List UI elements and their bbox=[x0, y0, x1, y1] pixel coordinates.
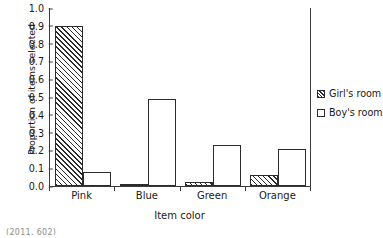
y-axis-tick-label: 0.7 bbox=[29, 56, 49, 67]
legend-swatch-icon bbox=[317, 90, 325, 98]
y-axis-tick-label: 0.0 bbox=[29, 181, 49, 192]
legend: Girl's roomBoy's room bbox=[317, 88, 383, 126]
bar bbox=[120, 184, 148, 186]
x-axis-title: Item color bbox=[49, 210, 310, 221]
caption-fragment: (2011, 602) bbox=[6, 228, 56, 235]
legend-item: Boy's room bbox=[317, 107, 383, 118]
x-axis-tick-mark bbox=[49, 187, 50, 191]
y-axis-tick-label: 1.0 bbox=[29, 3, 49, 14]
y-axis-tick-label: 0.2 bbox=[29, 145, 49, 156]
bar-group bbox=[50, 8, 115, 186]
x-axis-tick-label: Blue bbox=[114, 190, 179, 201]
x-axis-tick-label: Pink bbox=[49, 190, 114, 201]
y-axis-tick-label: 0.5 bbox=[29, 92, 49, 103]
x-axis-tick-label: Green bbox=[180, 190, 245, 201]
plot-area bbox=[49, 8, 311, 187]
x-axis-tick-mark bbox=[310, 187, 311, 191]
bar-group bbox=[246, 8, 311, 186]
legend-swatch-icon bbox=[317, 109, 325, 117]
legend-item: Girl's room bbox=[317, 88, 383, 99]
bar bbox=[83, 172, 111, 186]
legend-divider-line bbox=[310, 8, 311, 187]
bar-group bbox=[181, 8, 246, 186]
x-axis-tick-label: Orange bbox=[245, 190, 310, 201]
y-axis-tick-label: 0.4 bbox=[29, 109, 49, 120]
bar bbox=[185, 182, 213, 186]
legend-label: Boy's room bbox=[329, 107, 383, 118]
x-axis-tick-mark bbox=[114, 187, 115, 191]
y-axis-tick-label: 0.8 bbox=[29, 38, 49, 49]
bar-group bbox=[115, 8, 180, 186]
y-axis-tick-label: 0.6 bbox=[29, 74, 49, 85]
bar bbox=[250, 175, 278, 186]
bar bbox=[55, 26, 83, 186]
y-axis-tick-label: 0.9 bbox=[29, 20, 49, 31]
y-axis-tick-label: 0.3 bbox=[29, 127, 49, 138]
bar bbox=[148, 99, 176, 186]
bar bbox=[213, 145, 241, 186]
y-axis-tick-label: 0.1 bbox=[29, 163, 49, 174]
legend-label: Girl's room bbox=[329, 88, 381, 99]
x-axis-tick-mark bbox=[180, 187, 181, 191]
x-axis-tick-labels: PinkBlueGreenOrange bbox=[49, 190, 310, 201]
bar bbox=[278, 149, 306, 186]
bar-groups bbox=[50, 8, 311, 186]
x-axis-tick-mark bbox=[245, 187, 246, 191]
